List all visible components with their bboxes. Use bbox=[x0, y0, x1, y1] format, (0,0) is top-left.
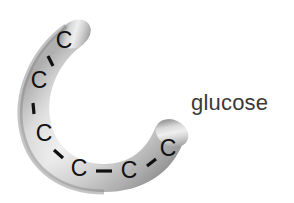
figure-canvas: C C C C C C glucose bbox=[0, 0, 294, 203]
molecule-name-label: glucose bbox=[191, 90, 268, 116]
atom-label-c1: C bbox=[56, 27, 73, 53]
carbon-backbone-ribbon bbox=[20, 13, 193, 192]
atom-label-c5: C bbox=[121, 157, 138, 183]
ribbon-sheen bbox=[20, 26, 184, 192]
atom-label-c3: C bbox=[36, 120, 53, 146]
atom-label-c6: C bbox=[160, 135, 177, 161]
bond-c2-c3 bbox=[33, 103, 34, 114]
atom-label-c2: C bbox=[31, 67, 48, 93]
atom-label-c4: C bbox=[71, 155, 88, 181]
